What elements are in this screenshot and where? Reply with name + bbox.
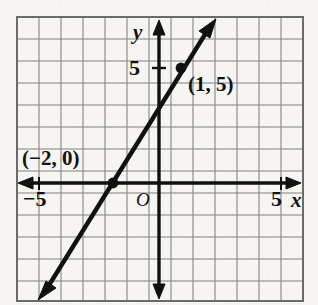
x-tick-label-neg5: −5 <box>23 188 47 210</box>
point-label-1-5: (1, 5) <box>188 74 234 95</box>
origin-label: O <box>136 190 150 209</box>
point-marker-1-5 <box>176 63 187 74</box>
graph-figure: y 5 (1, 5) (−2, 0) −5 O 5 x <box>0 0 318 305</box>
point-marker-neg2-0 <box>108 178 119 189</box>
y-axis-label: y <box>133 22 142 43</box>
y-tick-label-5: 5 <box>129 57 140 79</box>
x-tick-label-5: 5 <box>271 188 282 210</box>
x-axis-label: x <box>291 190 302 211</box>
point-label-neg2-0: (−2, 0) <box>22 148 79 169</box>
